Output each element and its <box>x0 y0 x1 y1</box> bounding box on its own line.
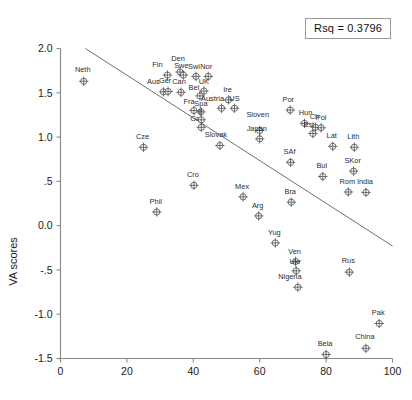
plot-canvas: -1.5-1.0-.50.0.51.01.52.0 020406080100 N… <box>0 0 412 400</box>
x-tick-label: 0 <box>58 365 64 377</box>
x-tick-label: 20 <box>121 365 133 377</box>
data-point-label: Sloven <box>246 110 269 119</box>
data-point-label: Lith <box>347 132 359 141</box>
data-point-label: It <box>198 107 202 116</box>
data-point <box>238 192 247 201</box>
data-point-label: Pak <box>372 308 385 317</box>
data-point <box>318 172 327 181</box>
data-point-label: SAf <box>284 147 297 156</box>
data-point <box>215 141 224 150</box>
y-tick-label: 0.0 <box>38 219 53 231</box>
regression-line <box>85 49 392 247</box>
data-point-label: China <box>355 332 375 341</box>
data-point <box>375 319 384 328</box>
data-point-label: Lat <box>327 131 337 140</box>
data-points: NethFinDenSweSwiNorAusGerCanUKBelIreAust… <box>75 54 385 359</box>
data-point <box>189 181 198 190</box>
x-tick-label: 60 <box>254 365 266 377</box>
y-tick-label: 2.0 <box>38 42 53 54</box>
x-axis-ticks: 020406080100 <box>58 359 402 377</box>
data-point <box>139 143 148 152</box>
y-tick-label: 1.5 <box>38 87 53 99</box>
data-point <box>350 143 359 152</box>
x-tick-label: 80 <box>320 365 332 377</box>
data-point-label: Bra <box>284 187 296 196</box>
data-point <box>344 187 353 196</box>
data-point <box>316 123 325 132</box>
data-point-label: Can <box>172 77 186 86</box>
data-point <box>361 344 370 353</box>
data-point <box>286 105 295 114</box>
data-point-label: Mex <box>235 182 249 191</box>
data-point-label: Swi <box>188 62 200 71</box>
fit-line-segment <box>85 49 392 247</box>
axes <box>61 49 393 359</box>
data-point-label: Rom <box>340 177 356 186</box>
data-point-label: Gr <box>190 114 199 123</box>
data-point-label: Ven <box>288 247 301 256</box>
data-point-label: Por <box>282 95 294 104</box>
data-point <box>271 238 280 247</box>
data-point-label: Ukr <box>289 257 301 266</box>
data-point <box>230 104 239 113</box>
data-point <box>349 166 358 175</box>
data-point-label: Neth <box>75 65 91 74</box>
data-point <box>217 104 226 113</box>
y-axis-title: VA scores <box>7 237 19 286</box>
data-point-label: Est <box>303 120 314 129</box>
data-point-label: Nor <box>200 62 212 71</box>
y-tick-label: -1.5 <box>34 352 52 364</box>
x-tick-label: 100 <box>384 365 402 377</box>
data-point-label: UK <box>199 77 209 86</box>
rsq-annotation-box: Rsq = 0.3796 <box>305 18 391 39</box>
data-point-label: US <box>229 94 239 103</box>
data-point-label: SKor <box>344 156 361 165</box>
data-point-label: Ire <box>223 85 232 94</box>
data-point-label: Japan <box>247 124 267 133</box>
data-point <box>286 158 295 167</box>
data-point <box>79 77 88 86</box>
y-tick-label: -1.0 <box>34 308 52 320</box>
data-point <box>254 211 263 220</box>
data-point-label: Phil <box>150 197 163 206</box>
data-point-label: Cro <box>187 170 199 179</box>
y-tick-label: -.5 <box>40 264 52 276</box>
data-point <box>321 350 330 359</box>
data-point-label: Arg <box>252 201 264 210</box>
y-tick-label: 1.0 <box>38 131 53 143</box>
data-point-label: Pol <box>316 113 327 122</box>
data-point <box>287 197 296 206</box>
data-point-label: Ger <box>159 76 172 85</box>
y-axis-ticks: -1.5-1.0-.50.0.51.01.52.0 <box>34 42 60 364</box>
data-point-label: Fin <box>152 60 162 69</box>
data-point-label: Nigeria <box>278 272 302 281</box>
scatter-chart: -1.5-1.0-.50.0.51.01.52.0 020406080100 N… <box>0 0 412 400</box>
data-point-label: Yug <box>268 228 281 237</box>
data-point-label: India <box>357 177 374 186</box>
data-point <box>328 142 337 151</box>
data-point <box>152 207 161 216</box>
data-point-label: Bela <box>318 339 334 348</box>
y-axis-title-text: VA scores <box>7 237 19 286</box>
data-point-label: Bel <box>189 83 200 92</box>
x-tick-label: 40 <box>187 365 199 377</box>
data-point <box>255 134 264 143</box>
data-point-label: Rus <box>342 256 355 265</box>
data-point <box>345 267 354 276</box>
data-point-label: Bul <box>316 161 327 170</box>
data-point-label: Swe <box>174 61 188 70</box>
data-point-label: Cze <box>136 132 149 141</box>
y-tick-label: .5 <box>44 175 53 187</box>
data-point-label: Slovak <box>205 130 227 139</box>
data-point <box>293 283 302 292</box>
data-point <box>361 188 370 197</box>
